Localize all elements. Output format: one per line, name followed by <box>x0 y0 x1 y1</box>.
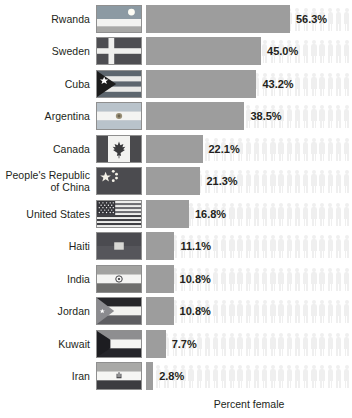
country-label-line-1: Jordan <box>58 305 90 317</box>
bar <box>146 297 174 325</box>
bar-value-label: 21.3% <box>206 166 237 196</box>
bar <box>146 232 174 260</box>
flag-argentina-icon <box>96 102 142 130</box>
country-label-line-1: Haiti <box>69 240 90 252</box>
chart-row: People's Republicof China21.3% <box>0 166 352 196</box>
bar <box>146 70 256 98</box>
country-label-line-1: Rwanda <box>51 13 90 25</box>
bar-value-label: 56.3% <box>296 4 327 34</box>
bar-value-label: 10.8% <box>180 264 211 294</box>
flag-jordan-icon <box>96 297 142 325</box>
flag-canada-icon <box>96 135 142 163</box>
country-label: Cuba <box>0 69 90 99</box>
country-label-line-2: of China <box>5 181 90 194</box>
chart-rows: Rwanda56.3%Sweden45.0%Cuba43.2%Argentina… <box>0 0 352 418</box>
flag-united-states-icon <box>96 200 142 228</box>
chart-row: Canada22.1% <box>0 134 352 164</box>
country-label-line-1: Kuwait <box>58 338 90 350</box>
country-label-line-1: People's Republic <box>5 169 90 182</box>
country-label: People's Republicof China <box>0 166 90 196</box>
country-label-line-1: Argentina <box>45 110 90 122</box>
bar-value-label: 16.8% <box>195 199 226 229</box>
country-label-line-1: Canada <box>53 143 90 155</box>
bar-value-label: 43.2% <box>262 69 293 99</box>
flag-kuwait-icon <box>96 330 142 358</box>
country-label: Rwanda <box>0 4 90 34</box>
bar-chart-percent-female-legislators: Rwanda56.3%Sweden45.0%Cuba43.2%Argentina… <box>0 0 352 418</box>
country-label: Canada <box>0 134 90 164</box>
flag-sweden-icon <box>96 37 142 65</box>
chart-row: Sweden45.0% <box>0 36 352 66</box>
chart-row: Haiti11.1% <box>0 231 352 261</box>
x-axis-title: Percent female <box>146 398 352 410</box>
country-label-line-1: India <box>67 273 90 285</box>
chart-row: India10.8% <box>0 264 352 294</box>
bar <box>146 265 174 293</box>
chart-row: Rwanda56.3% <box>0 4 352 34</box>
bar-value-label: 38.5% <box>250 101 281 131</box>
flag-india-icon <box>96 265 142 293</box>
flag-iran-icon <box>96 362 142 390</box>
flag-haiti-icon <box>96 232 142 260</box>
bar <box>146 5 290 33</box>
bar-value-label: 45.0% <box>267 36 298 66</box>
chart-row: United States16.8% <box>0 199 352 229</box>
country-label: Haiti <box>0 231 90 261</box>
flag-china-icon <box>96 167 142 195</box>
country-label-line-1: Iran <box>72 370 90 382</box>
chart-row: Argentina38.5% <box>0 101 352 131</box>
bar <box>146 135 203 163</box>
bar <box>146 200 189 228</box>
country-label-line-1: Sweden <box>52 45 90 57</box>
bar-value-label: 2.8% <box>159 361 184 391</box>
bar-value-label: 22.1% <box>209 134 240 164</box>
flag-rwanda-icon <box>96 5 142 33</box>
country-label-line-1: United States <box>26 208 90 220</box>
bar <box>146 362 153 390</box>
country-label: Argentina <box>0 101 90 131</box>
chart-row: Kuwait7.7% <box>0 329 352 359</box>
country-label: Sweden <box>0 36 90 66</box>
bar <box>146 37 261 65</box>
country-label: Kuwait <box>0 329 90 359</box>
bar-value-label: 7.7% <box>172 329 197 359</box>
country-label: Jordan <box>0 296 90 326</box>
country-label: United States <box>0 199 90 229</box>
chart-row: Iran2.8% <box>0 361 352 391</box>
country-label: Iran <box>0 361 90 391</box>
bar-value-label: 11.1% <box>180 231 211 261</box>
bar <box>146 330 166 358</box>
bar <box>146 102 244 130</box>
country-label: India <box>0 264 90 294</box>
flag-cuba-icon <box>96 70 142 98</box>
bar <box>146 167 200 195</box>
country-label-line-1: Cuba <box>65 78 90 90</box>
bar-value-label: 10.8% <box>180 296 211 326</box>
chart-row: Jordan10.8% <box>0 296 352 326</box>
chart-row: Cuba43.2% <box>0 69 352 99</box>
